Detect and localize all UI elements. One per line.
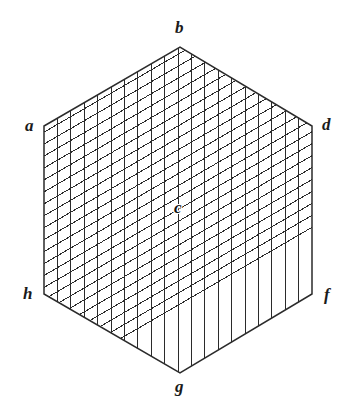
vertex-label-g: g (175, 378, 184, 395)
vertex-label-b: b (175, 19, 184, 36)
vertex-label-f: f (324, 286, 330, 303)
vertex-label-d: d (322, 116, 331, 133)
vertex-label-a: a (25, 117, 34, 134)
grid-lines-group (30, 0, 326, 391)
center-label-c: c (174, 199, 182, 216)
vertex-label-h: h (23, 285, 32, 302)
figure-root: a b d f g h c (0, 0, 350, 413)
